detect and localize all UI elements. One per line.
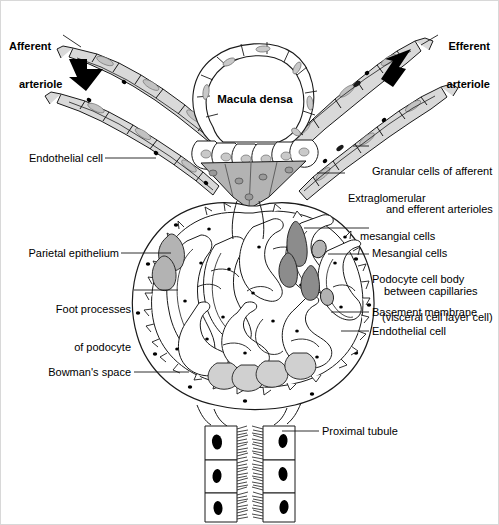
proximal-tubule — [197, 403, 301, 522]
label-endothelial-cell-left: Endothelial cell — [1, 152, 103, 165]
extraglomerular-line1: Extraglomerular — [348, 192, 435, 205]
label-efferent-arteriole: Efferent arteriole — [447, 15, 490, 115]
label-afferent-arteriole: Afferent arteriole — [9, 15, 62, 115]
efferent-arteriole-line1: Efferent — [447, 40, 490, 53]
afferent-arteriole-line2: arteriole — [9, 78, 62, 91]
foot-processes-line2: of podocyte — [9, 341, 131, 354]
label-macula-densa: Macula densa — [197, 93, 313, 106]
brush-border-microvilli — [237, 426, 263, 519]
label-endothelial-cell-right: Endothelial cell — [372, 325, 446, 338]
afferent-arteriole-line1: Afferent — [9, 40, 62, 53]
label-parietal-epithelium: Parietal epithelium — [9, 247, 119, 260]
efferent-arteriole-line2: arteriole — [447, 78, 490, 91]
label-proximal-tubule: Proximal tubule — [322, 425, 398, 438]
label-bowmans-space: Bowman's space — [9, 366, 131, 379]
foot-processes-line1: Foot processes — [9, 303, 131, 316]
label-basement-membrane: Basement membrane — [372, 306, 477, 319]
label-foot-processes-of-podocyte: Foot processes of podocyte — [9, 278, 131, 378]
afferent-arteriole-vessel — [45, 46, 220, 195]
figure-canvas: Afferent arteriole Efferent arteriole Ma… — [0, 0, 499, 525]
podocyte-line1: Podocyte cell body — [372, 273, 493, 286]
